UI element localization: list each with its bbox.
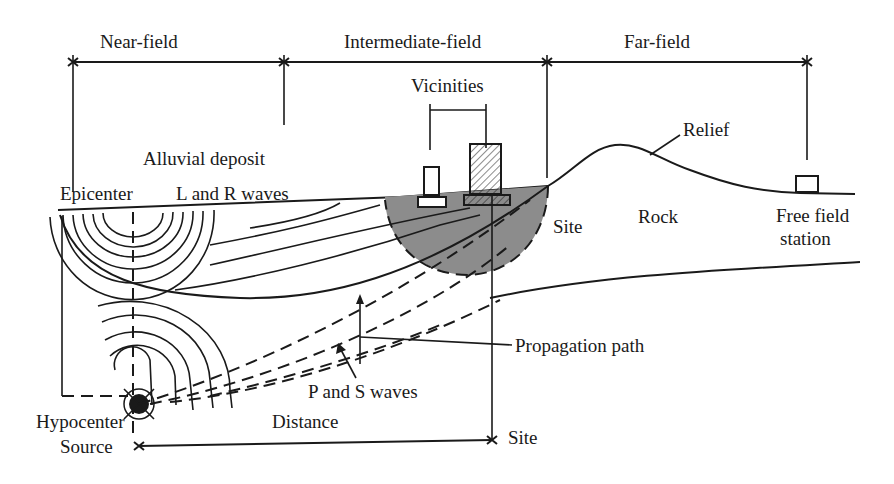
- alluvial-layer: [210, 205, 380, 245]
- site-lower-label: Site: [508, 427, 538, 448]
- propagation-path-leader: [360, 337, 512, 345]
- rock-label: Rock: [638, 206, 679, 227]
- distance-label: Distance: [272, 411, 338, 432]
- relief-leader-line: [650, 135, 680, 155]
- alluvial-layer: [250, 203, 340, 228]
- zone-label-far-field: Far-field: [624, 31, 691, 52]
- distance-line: [139, 440, 492, 446]
- building-small: [418, 167, 446, 207]
- free-field-station-icon: [796, 176, 818, 192]
- site-upper-label: Site: [553, 216, 583, 237]
- propagation-path-label: Propagation path: [515, 335, 645, 356]
- source-label: Source: [60, 436, 113, 457]
- rock-layer-boundary: [490, 262, 860, 298]
- hypocenter-label: Hypocenter: [36, 411, 125, 432]
- vicinities-label: Vicinities: [411, 75, 484, 96]
- free-field-label-line1: Free field: [776, 205, 850, 226]
- seismic-diagram: Near-field Intermediate-field Far-field …: [0, 0, 894, 484]
- alluvial-deposit-label: Alluvial deposit: [143, 148, 266, 169]
- free-field-label-line2: station: [780, 228, 831, 249]
- l-r-waves-label: L and R waves: [176, 183, 289, 204]
- building-large: [464, 144, 510, 205]
- relief-label: Relief: [683, 119, 730, 140]
- p-s-waves-label: P and S waves: [308, 381, 418, 402]
- zone-label-near-field: Near-field: [100, 31, 178, 52]
- hypocenter-wavefronts: [98, 301, 232, 410]
- epicenter-label: Epicenter: [60, 183, 133, 204]
- zone-label-intermediate-field: Intermediate-field: [344, 31, 482, 52]
